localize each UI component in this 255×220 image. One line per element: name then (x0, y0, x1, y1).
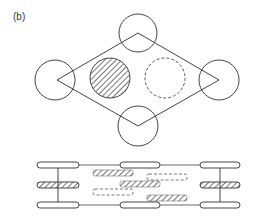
hatched-bar-3 (147, 195, 187, 201)
rod-mid-right (200, 182, 240, 188)
hatched-bar-1 (93, 170, 133, 176)
dashed-circle (145, 58, 185, 98)
hatched-bar-2 (120, 181, 160, 187)
diagram-canvas (0, 0, 255, 220)
rod-top-left (37, 162, 79, 168)
top-view (35, 14, 239, 146)
dashed-bar-1 (147, 174, 187, 180)
rod-top-right (200, 162, 240, 168)
side-view (37, 162, 240, 208)
rod-top-middle (120, 162, 160, 168)
rhombus (57, 33, 219, 126)
rod-mid-left (37, 182, 79, 188)
dashed-bar-2 (93, 189, 133, 195)
rod-bottom-left (37, 202, 79, 208)
rod-bottom-middle (120, 202, 160, 208)
corner-circle-left (35, 60, 75, 100)
hatched-circle (90, 58, 130, 98)
rod-bottom-right (200, 202, 240, 208)
